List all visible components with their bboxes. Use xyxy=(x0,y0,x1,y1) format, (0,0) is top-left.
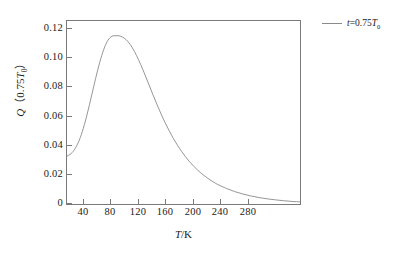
x-tick-mark xyxy=(165,199,166,204)
y-tick-mark xyxy=(67,57,72,58)
y-tick-mark xyxy=(67,116,72,117)
y-tick-label: 0.04 xyxy=(27,139,63,150)
x-tick-mark xyxy=(138,199,139,204)
x-tick-mark xyxy=(110,199,111,204)
y-tick-mark xyxy=(67,174,72,175)
y-tick-label: 0.08 xyxy=(27,80,63,91)
y-axis-label: Q（0.75T0） xyxy=(11,7,29,167)
y-tick-label: 0.06 xyxy=(27,110,63,121)
x-axis-unit: /K xyxy=(181,228,192,240)
y-axis-close-paren: ） xyxy=(14,58,26,69)
x-axis-label: T/K xyxy=(0,228,367,240)
data-curve xyxy=(67,21,300,204)
y-tick-label: 0.02 xyxy=(27,168,63,179)
y-axis-symbol: Q xyxy=(14,109,26,117)
x-tick-label: 280 xyxy=(228,206,268,217)
x-tick-mark xyxy=(220,199,221,204)
plot-area xyxy=(66,20,301,205)
legend-line-swatch xyxy=(322,23,342,24)
y-tick-mark xyxy=(67,203,72,204)
y-tick-mark xyxy=(67,145,72,146)
x-tick-mark xyxy=(193,199,194,204)
y-axis-value: 0.75 xyxy=(14,78,26,97)
chart-figure: 40 80 120 160 200 240 280 0 0.02 0.04 0.… xyxy=(0,0,411,256)
y-axis-open-paren: （ xyxy=(14,98,26,109)
y-tick-label: 0 xyxy=(27,197,63,208)
legend-value: 0.75 xyxy=(355,18,372,28)
y-axis-subscript: 0 xyxy=(20,69,29,73)
y-tick-label: 0.12 xyxy=(27,22,63,33)
y-tick-label: 0.10 xyxy=(27,51,63,62)
legend-label: t=0.75T0 xyxy=(347,18,380,30)
legend: t=0.75T0 xyxy=(322,18,380,30)
x-tick-mark xyxy=(248,199,249,204)
x-tick-mark xyxy=(83,199,84,204)
y-axis-sub-symbol: T xyxy=(14,72,26,78)
y-tick-mark xyxy=(67,28,72,29)
legend-subscript: 0 xyxy=(377,23,380,30)
y-tick-mark xyxy=(67,86,72,87)
